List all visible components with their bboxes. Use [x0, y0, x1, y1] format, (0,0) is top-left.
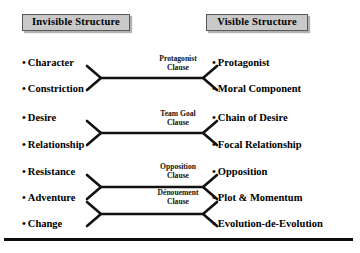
left-item-label: Change	[28, 218, 62, 229]
arrow-protagonist-clause	[84, 63, 220, 93]
left-item-desire: •Desire	[22, 112, 56, 124]
arrow-opposition-clause	[84, 172, 220, 202]
left-item-label: Desire	[28, 112, 56, 123]
header-visible-structure-label: Visible Structure	[217, 17, 297, 28]
arrow-denouement-clause	[84, 199, 220, 229]
header-invisible-structure-label: Invisible Structure	[32, 17, 120, 28]
header-invisible-structure: Invisible Structure	[22, 14, 130, 31]
left-item-change: •Change	[22, 218, 62, 230]
left-item-relationship: •Relationship	[22, 139, 84, 151]
right-item-focal-relationship: •Focal Relationship	[212, 139, 302, 151]
structure-mapping-diagram: Invisible Structure Visible Structure •C…	[0, 0, 360, 253]
header-visible-structure: Visible Structure	[206, 14, 308, 31]
right-item-evolution-de-evolution: •Evolution-de-Evolution	[212, 218, 323, 230]
left-item-label: Character	[28, 57, 74, 68]
left-item-character: •Character	[22, 57, 74, 69]
right-item-label: Chain of Desire	[218, 112, 288, 123]
right-item-label: Focal Relationship	[218, 139, 302, 150]
left-item-resistance: •Resistance	[22, 166, 75, 178]
left-item-label: Relationship	[28, 139, 85, 150]
left-item-constriction: •Constriction	[22, 83, 84, 95]
left-item-label: Constriction	[28, 83, 84, 94]
left-item-label: Resistance	[28, 166, 75, 177]
left-item-adventure: •Adventure	[22, 192, 76, 204]
arrow-team-goal-clause	[84, 118, 220, 148]
right-item-label: Moral Component	[218, 83, 301, 94]
left-item-label: Adventure	[28, 192, 76, 203]
right-item-moral-component: •Moral Component	[212, 83, 301, 95]
bottom-divider	[4, 238, 353, 241]
right-item-label: Plot & Momentum	[218, 192, 303, 203]
right-item-label: Evolution-de-Evolution	[218, 218, 323, 229]
